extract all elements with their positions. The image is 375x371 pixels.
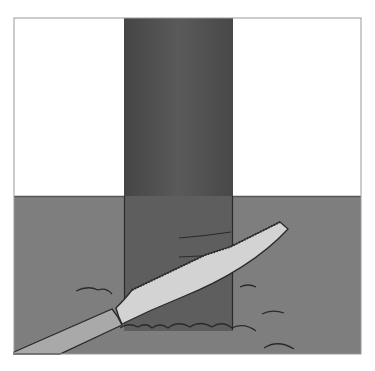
illustration bbox=[0, 0, 375, 371]
post bbox=[124, 18, 233, 196]
